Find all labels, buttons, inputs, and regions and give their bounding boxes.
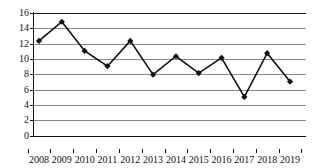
y-tick-label-12: 12	[19, 39, 29, 49]
y-tick-label-2: 2	[24, 115, 29, 125]
x-tick-mark-12	[301, 149, 302, 153]
y-tick-mark-0	[30, 136, 34, 137]
y-tick-mark-8	[30, 74, 34, 75]
plot-area: 0246810121416 20082009201020112012201320…	[33, 13, 306, 136]
x-tick-mark-3	[96, 149, 97, 153]
x-tick-label-2008: 2008	[29, 155, 49, 165]
x-tick-label-2013: 2013	[143, 155, 163, 165]
y-tick-label-10: 10	[19, 54, 29, 64]
y-tick-mark-14	[30, 28, 34, 29]
x-tick-label-2018: 2018	[257, 155, 277, 165]
x-tick-mark-6	[165, 149, 166, 153]
x-tick-mark-7	[187, 149, 188, 153]
y-tick-mark-2	[30, 120, 34, 121]
x-tick-label-2016: 2016	[212, 155, 232, 165]
x-tick-mark-1	[50, 149, 51, 153]
gridline-2: 2	[33, 120, 306, 121]
x-tick-mark-0	[28, 149, 29, 153]
gridline-14: 14	[33, 28, 306, 29]
y-tick-label-4: 4	[24, 100, 29, 110]
y-tick-mark-16	[30, 13, 34, 14]
x-tick-mark-2	[73, 149, 74, 153]
x-tick-mark-9	[233, 149, 234, 153]
gridline-10: 10	[33, 59, 306, 60]
gridline-12: 12	[33, 44, 306, 45]
y-tick-label-6: 6	[24, 85, 29, 95]
x-tick-label-2012: 2012	[120, 155, 140, 165]
y-tick-mark-12	[30, 44, 34, 45]
x-tick-label-2010: 2010	[75, 155, 95, 165]
gridline-8: 8	[33, 74, 306, 75]
x-tick-label-2019: 2019	[280, 155, 300, 165]
x-tick-label-2014: 2014	[166, 155, 186, 165]
gridline-16: 16	[33, 13, 306, 14]
x-tick-label-2015: 2015	[189, 155, 209, 165]
y-tick-label-0: 0	[24, 131, 29, 141]
x-tick-mark-10	[256, 149, 257, 153]
x-tick-mark-4	[119, 149, 120, 153]
gridline-0: 0	[33, 136, 306, 137]
line-chart: 0246810121416 20082009201020112012201320…	[0, 0, 316, 168]
y-tick-mark-4	[30, 105, 34, 106]
gridline-6: 6	[33, 90, 306, 91]
x-tick-label-2009: 2009	[52, 155, 72, 165]
x-tick-mark-11	[279, 149, 280, 153]
y-tick-mark-6	[30, 90, 34, 91]
x-tick-label-2011: 2011	[98, 155, 118, 165]
y-tick-label-14: 14	[19, 23, 29, 33]
y-tick-label-8: 8	[24, 69, 29, 79]
x-tick-mark-5	[142, 149, 143, 153]
x-tick-label-2017: 2017	[234, 155, 254, 165]
x-tick-mark-8	[210, 149, 211, 153]
y-tick-label-16: 16	[19, 8, 29, 18]
y-tick-mark-10	[30, 59, 34, 60]
gridline-4: 4	[33, 105, 306, 106]
